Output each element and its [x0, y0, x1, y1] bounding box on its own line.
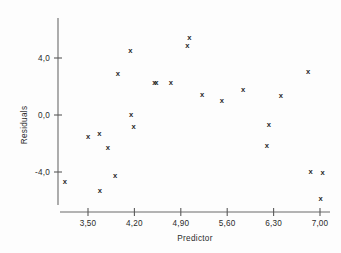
data-point: x	[185, 41, 190, 50]
data-point: x	[116, 69, 121, 78]
y-tick-label: 4,0	[38, 54, 50, 63]
data-point: x	[279, 91, 284, 100]
data-point: x	[106, 143, 111, 152]
plot-canvas: 4,00,0-4,0 3,504,204,905,606,307,00 xxxx…	[0, 0, 341, 253]
x-tick-label: 6,30	[265, 219, 282, 228]
data-point: x	[319, 194, 324, 203]
x-axis-title: Predictor	[177, 234, 212, 243]
x-tick-label: 7,00	[312, 219, 329, 228]
data-point: x	[200, 90, 205, 99]
data-point: x	[187, 33, 192, 42]
y-axis: 4,00,0-4,0	[35, 18, 62, 205]
data-point: x	[265, 141, 270, 150]
data-point: x	[321, 168, 326, 177]
y-axis-title: Residuals	[20, 106, 29, 145]
x-tick-label: 4,20	[126, 219, 143, 228]
data-point: x	[98, 186, 103, 195]
x-tick-label: 5,60	[219, 219, 236, 228]
data-point: x	[267, 120, 272, 129]
data-point: x	[241, 85, 246, 94]
x-tick-label: 3,50	[80, 219, 97, 228]
data-point: x	[132, 122, 137, 131]
scatter-plot-figure: 4,00,0-4,0 3,504,204,905,606,307,00 xxxx…	[0, 0, 341, 253]
data-point: x	[154, 78, 159, 87]
data-point: x	[129, 110, 134, 119]
x-tick-label: 4,90	[172, 219, 189, 228]
y-tick-label: 0,0	[38, 111, 50, 120]
data-point: x	[86, 132, 91, 141]
data-point: x	[63, 177, 68, 186]
data-point: x	[97, 129, 102, 138]
data-point: x	[169, 78, 174, 87]
data-point: x	[309, 167, 314, 176]
data-point: x	[128, 46, 133, 55]
x-axis: 3,504,204,905,606,307,00	[60, 208, 330, 228]
y-tick-label: -4,0	[35, 168, 50, 177]
data-point: x	[306, 67, 311, 76]
data-point-layer: xxxxxxxxxxxxxxxxxxxxxxxxx	[63, 33, 326, 203]
data-point: x	[220, 96, 225, 105]
data-point: x	[113, 171, 118, 180]
